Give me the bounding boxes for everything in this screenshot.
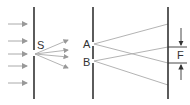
interference-rays xyxy=(94,24,168,85)
incident-light-arrows xyxy=(8,24,27,83)
label-f: F xyxy=(177,49,184,61)
double-slit-diagram: S A B F xyxy=(0,0,190,105)
label-s: S xyxy=(37,39,44,51)
label-a: A xyxy=(83,38,91,50)
label-b: B xyxy=(83,56,90,68)
